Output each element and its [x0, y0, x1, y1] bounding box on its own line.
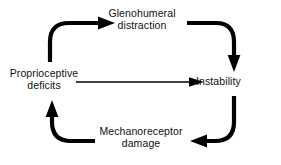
arrow-instability-to-mechanoreceptor — [190, 96, 234, 147]
node-glenohumeral-distraction-line1: Glenohumeral — [108, 7, 175, 19]
node-glenohumeral-distraction-line2: distraction — [98, 20, 186, 32]
node-glenohumeral-distraction: Glenohumeral distraction — [98, 8, 186, 31]
node-mechanoreceptor-damage-line2: damage — [94, 138, 188, 150]
node-instability-line1: Instability — [196, 75, 241, 87]
arrow-glenohumeral-to-instability — [187, 23, 240, 72]
node-proprioceptive-deficits: Proprioceptive deficits — [6, 68, 82, 91]
arrow-proprioceptive-to-instability — [76, 77, 204, 87]
node-proprioceptive-deficits-line2: deficits — [6, 80, 82, 92]
arrow-mechanoreceptor-to-proprioceptive — [46, 100, 95, 141]
node-instability: Instability — [196, 76, 270, 88]
cyclical-diagram: Glenohumeral distraction Proprioceptive … — [0, 0, 281, 165]
node-mechanoreceptor-damage: Mechanoreceptor damage — [94, 126, 188, 149]
node-mechanoreceptor-damage-line1: Mechanoreceptor — [99, 125, 182, 137]
node-proprioceptive-deficits-line1: Proprioceptive — [10, 67, 79, 79]
